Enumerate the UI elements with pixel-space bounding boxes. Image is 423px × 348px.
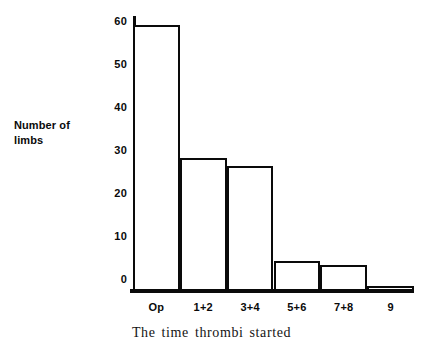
- bar-chart-figure: Number of limbs 0102030405060 Op1+23+45+…: [0, 0, 423, 348]
- y-tick-label: 10: [114, 230, 127, 242]
- plot-area: 0102030405060 Op1+23+45+67+89: [133, 16, 414, 293]
- bar: [133, 25, 180, 291]
- bar: [274, 261, 321, 291]
- x-category-label: 1+2: [194, 301, 213, 313]
- y-tick-label: 20: [114, 187, 127, 199]
- y-tick-label: 60: [114, 15, 127, 27]
- bar: [367, 286, 414, 291]
- y-axis-title-line-1: Number of: [14, 118, 106, 133]
- y-axis-title: Number of limbs: [14, 118, 106, 148]
- bar: [180, 158, 227, 291]
- x-category-label: 3+4: [240, 301, 259, 313]
- x-axis-title: The time thrombi started: [0, 325, 423, 341]
- y-tick-label: 40: [114, 101, 127, 113]
- x-category-label: 5+6: [287, 301, 306, 313]
- y-tick-label: 50: [114, 58, 127, 70]
- y-axis-title-line-2: limbs: [14, 133, 106, 148]
- x-category-label: Op: [149, 301, 165, 313]
- y-tick-label: 0: [121, 273, 127, 285]
- x-category-label: 7+8: [334, 301, 353, 313]
- bar: [227, 166, 274, 291]
- y-tick-label: 30: [114, 144, 127, 156]
- bar: [320, 265, 367, 291]
- x-category-label: 9: [387, 301, 393, 313]
